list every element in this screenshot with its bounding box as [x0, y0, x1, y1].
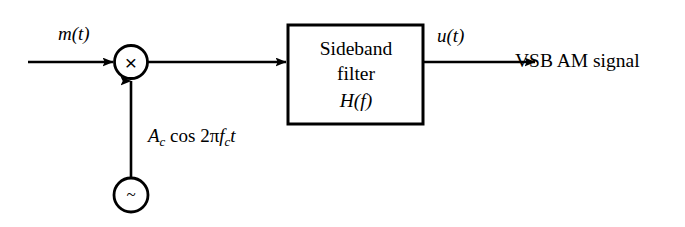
transfer-function-arg: (f)	[354, 90, 372, 111]
input-signal-base: m	[58, 23, 72, 44]
multiply-icon: ×	[117, 50, 145, 76]
sideband-filter-label-group: Sideband filter H(f)	[289, 26, 423, 123]
input-signal-label: m(t)	[58, 24, 90, 43]
sideband-filter-line-1: Sideband	[320, 37, 393, 60]
sideband-filter-line-2: filter	[337, 62, 375, 85]
carrier-time-variable: t	[230, 125, 235, 146]
carrier-function: cos	[170, 125, 195, 146]
output-signal-label: u(t)	[437, 26, 464, 45]
input-signal-arg: (t)	[72, 23, 90, 44]
carrier-amplitude: A	[148, 125, 160, 146]
transfer-function-base: H	[340, 90, 354, 111]
output-signal-arg: (t)	[447, 25, 465, 46]
carrier-signal-label: Ac cos 2πfct	[148, 126, 236, 149]
carrier-two-pi: 2π	[200, 125, 219, 146]
sine-wave-icon: ~	[117, 183, 145, 207]
transfer-function-label: H(f)	[340, 89, 373, 112]
output-signal-base: u	[437, 25, 447, 46]
vsb-am-modulator-diagram: × ~ m(t) Sideband filter H(f) u(t) VSB A…	[0, 0, 685, 227]
output-destination-label: VSB AM signal	[515, 51, 640, 71]
